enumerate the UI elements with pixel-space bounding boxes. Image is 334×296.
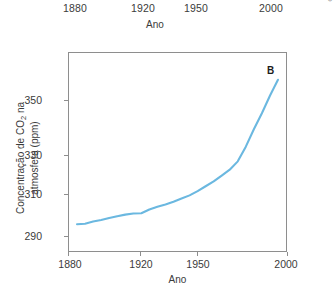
y-axis-title-subscript: 2 (19, 116, 28, 120)
x-axis-tick-mark (287, 252, 288, 256)
x-axis-tick-mark (197, 252, 198, 256)
x-axis-tick-mark (140, 252, 141, 256)
x-axis-tick-label: 1950 (186, 258, 209, 270)
x-axis-tick-label: 1920 (129, 258, 152, 270)
x-axis-tick-label: 2000 (274, 258, 297, 270)
co2-trend-line (77, 80, 278, 224)
y-axis-title: Concentração de CO2 naatmosfera (ppm) (15, 73, 41, 243)
y-axis-title-line2: atmosfera (ppm) (29, 121, 40, 194)
y-axis-title-line1: Concentração de CO (15, 120, 26, 214)
co2-curve-svg (69, 53, 286, 251)
illustrator-credit: ADILSON SECCO (327, 0, 333, 2)
co2-concentration-line-chart: 350 330 310 290 1880 1920 1950 2000 Ano … (0, 0, 334, 296)
x-axis-tick-label: 1880 (58, 258, 81, 270)
plot-area: B (68, 52, 287, 252)
x-axis-tick-mark (68, 252, 69, 256)
y-axis-title-line1-tail: na (15, 102, 26, 116)
x-axis-title: Ano (68, 274, 287, 285)
